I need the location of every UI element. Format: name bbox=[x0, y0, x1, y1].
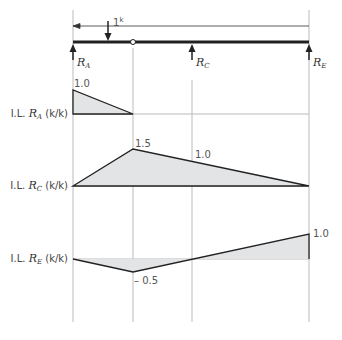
reaction-arrows bbox=[70, 44, 313, 60]
il-rc-value-c: 1.0 bbox=[195, 149, 211, 160]
il-rc-value-hinge: 1.5 bbox=[135, 138, 151, 149]
il-rc-label: I.L. RC (k/k) bbox=[10, 179, 68, 193]
reaction-label-c: RC bbox=[195, 56, 210, 70]
reaction-label-a: RA bbox=[76, 56, 90, 70]
hinge-icon bbox=[131, 40, 136, 45]
il-re-value-hinge: – 0.5 bbox=[134, 275, 158, 286]
il-ra-value: 1.0 bbox=[74, 78, 90, 89]
il-ra-plot bbox=[73, 90, 309, 114]
influence-line-diagram: 1k RA RC RE 1.0 I.L. RA (k/k) 1.5 1.0 I.… bbox=[0, 0, 342, 340]
unit-load-arrow-icon bbox=[105, 21, 112, 41]
il-ra-label: I.L. RA (k/k) bbox=[11, 107, 68, 121]
reaction-label-e: RE bbox=[312, 56, 326, 70]
il-re-plot bbox=[73, 234, 309, 272]
il-re-value-e: 1.0 bbox=[313, 228, 329, 239]
il-rc-plot bbox=[73, 149, 309, 186]
il-re-label: I.L. RE (k/k) bbox=[11, 252, 69, 266]
